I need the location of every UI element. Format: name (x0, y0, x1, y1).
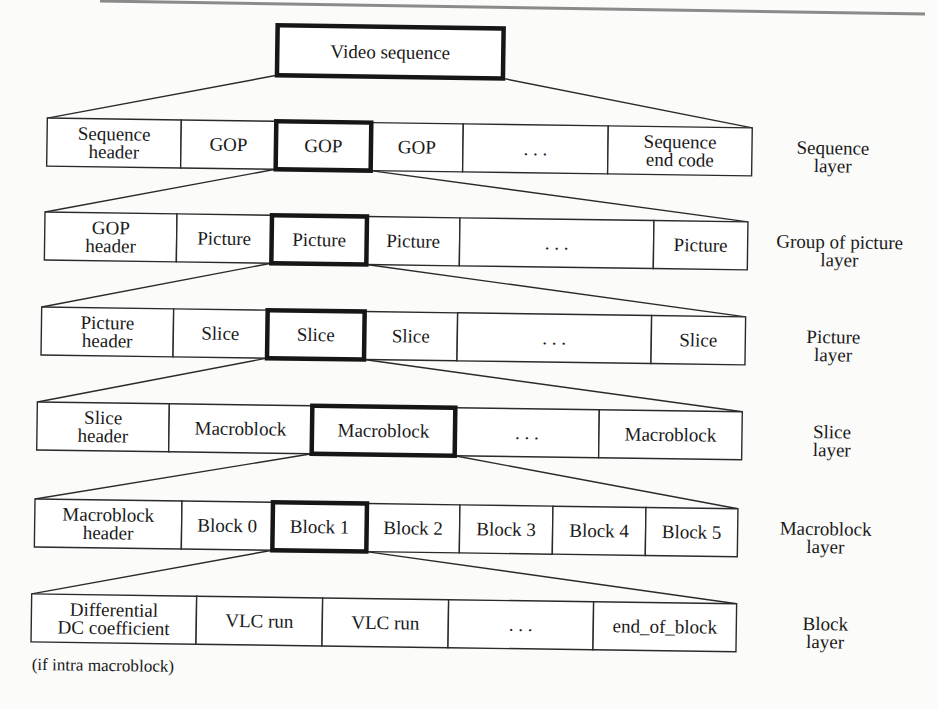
cell-slice: Slice (173, 309, 268, 358)
cell-label: . . . (523, 138, 547, 159)
cell-sequence-end-code: Sequenceend code (608, 126, 753, 176)
cell-ellipsis: . . . (459, 218, 654, 269)
cell-block-4: Block 4 (552, 506, 646, 555)
expansion-line-right (366, 265, 747, 317)
cell-label: Macroblock (194, 417, 287, 439)
cell-slice: Slice (267, 310, 365, 359)
cell-ellipsis: . . . (457, 313, 652, 364)
group-of-picture-layer-label: Group of picturelayer (776, 231, 903, 272)
cell-label: GOP (398, 136, 436, 158)
layer-label-line: layer (806, 536, 845, 558)
cell-label: Picture (386, 230, 440, 252)
expansion-line-left (47, 72, 277, 121)
cell-label: Macroblock (624, 423, 717, 445)
video-sequence-label: Video sequence (330, 41, 450, 64)
cell-label: . . . (545, 232, 569, 253)
cell-gop: GOP (371, 123, 464, 172)
cell-ellipsis: . . . (455, 408, 600, 458)
cell-label: VLC run (225, 610, 294, 632)
cell-slice: Slice (651, 316, 746, 365)
cell-macroblock: Macroblock (599, 410, 743, 460)
cell-vlc-run: VLC run (322, 598, 449, 648)
cell-block-1: Block 1 (272, 502, 367, 551)
cell-label: header (85, 235, 137, 257)
picture-layer-label: Picturelayer (806, 326, 860, 366)
cell-label: Block 5 (662, 521, 722, 543)
cell-label: header (77, 425, 129, 447)
cell-label: Block 2 (383, 517, 443, 539)
cell-label: Slice (392, 325, 430, 347)
cell-label: header (83, 522, 135, 544)
diagram-body: Video sequence SequenceheaderGOPGOP. . .… (31, 22, 906, 686)
layer-label-line: layer (813, 439, 852, 461)
layer-label-line: layer (806, 631, 845, 653)
layer-label-line: layer (820, 249, 859, 271)
block-layer-label: Blocklayer (802, 613, 848, 653)
cell-label: end_of_block (612, 615, 717, 637)
cell-slice: Slice (364, 312, 458, 361)
cell-ellipsis: . . . (448, 600, 594, 650)
expansion-line-left (37, 355, 267, 405)
expansion-line-right (454, 456, 739, 509)
cell-label: Block 0 (197, 514, 257, 536)
sequence-layer-label: Sequencelayer (796, 137, 869, 177)
cell-label: Block 4 (569, 520, 629, 542)
cell-label: VLC run (351, 612, 420, 634)
group-of-picture-layer-row: GOPheaderPicturePicture. . .PicturePictu… (44, 212, 748, 270)
cell-label: Slice (679, 329, 717, 351)
cell-label: header (88, 141, 140, 163)
cell-label: Slice (297, 324, 335, 346)
cell-block-2: Block 2 (366, 504, 460, 553)
layer-labels: SequencelayerGroup of picturelayerPictur… (771, 137, 905, 654)
cell-picture: Picture (366, 217, 460, 266)
cell-label: Slice (201, 323, 239, 345)
cell-macroblock: Macroblock (312, 406, 456, 456)
cell-end-of-block: end_of_block (593, 602, 737, 652)
cell-label: Macroblock (337, 419, 430, 441)
picture-layer-row: PictureheaderSliceSlice. . .SliceSlice (41, 307, 746, 365)
slice-layer-row: SliceheaderMacroblock. . .MacroblockMacr… (37, 402, 743, 460)
cell-label: Picture (197, 227, 251, 249)
cell-gop: GOP (181, 120, 277, 169)
cell-picture: Picture (271, 215, 367, 264)
cell-differential-dc-coefficient: DifferentialDC coefficient (31, 594, 197, 644)
cell-slice-header: Sliceheader (37, 402, 170, 452)
cell-block-0: Block 0 (181, 501, 273, 550)
expansion-line-right (363, 360, 743, 412)
cell-vlc-run: VLC run (196, 596, 323, 646)
expansion-line-left (45, 166, 276, 215)
layer-label-line: layer (814, 155, 853, 177)
cell-macroblock-header: Macroblockheader (34, 499, 182, 549)
slice-layer-label: Slicelayer (813, 421, 852, 461)
cell-picture-header: Pictureheader (41, 307, 174, 357)
video-sequence-box: Video sequence (277, 25, 504, 78)
layer-label-line: layer (814, 344, 853, 366)
macroblock-layer-row: MacroblockheaderBlock 0Block 2Block 3Blo… (34, 499, 738, 557)
cell-block-3: Block 3 (459, 505, 553, 554)
cell-label: . . . (509, 614, 533, 635)
expansion-line-right (502, 78, 753, 127)
expansion-line-right (366, 552, 738, 604)
cell-label: DC coefficient (58, 617, 171, 640)
page-top-rule (100, 1, 925, 14)
cell-macroblock: Macroblock (169, 404, 313, 454)
cell-ellipsis: . . . (463, 124, 609, 174)
mpeg-bitstream-hierarchy-diagram: Video sequence SequenceheaderGOPGOP. . .… (0, 0, 938, 709)
cell-label: . . . (515, 422, 539, 443)
cell-gop-header: GOPheader (44, 212, 177, 262)
layers: SequenceheaderGOPGOP. . .Sequenceend cod… (31, 118, 752, 652)
cell-label: . . . (542, 327, 566, 348)
expansion-line-left (32, 547, 273, 597)
cell-label: header (82, 330, 134, 352)
cell-label: GOP (304, 135, 342, 157)
macroblock-layer-label: Macroblocklayer (779, 518, 872, 558)
cell-label: end code (646, 149, 714, 171)
cell-block-5: Block 5 (645, 507, 738, 556)
footnote-intra-macroblock: (if intra macroblock) (32, 655, 175, 676)
cell-label: Block 3 (476, 518, 536, 540)
cell-picture: Picture (653, 221, 748, 270)
expansion-line-left (42, 260, 272, 310)
cell-gop: GOP (276, 121, 372, 170)
cell-picture: Picture (176, 214, 272, 263)
cell-label: GOP (209, 134, 247, 156)
